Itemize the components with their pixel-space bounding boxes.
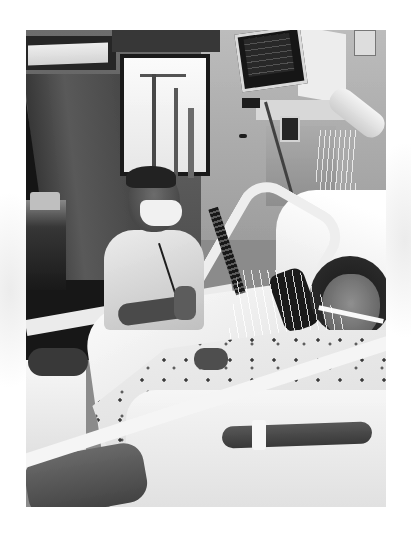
pole-clamp <box>242 98 260 108</box>
patient-hand <box>194 348 228 370</box>
photograph <box>26 30 386 507</box>
wall-fixture <box>239 134 247 138</box>
visitor-hair <box>126 166 176 188</box>
side-shelf <box>26 200 66 290</box>
clasped-hands <box>174 286 196 320</box>
surgical-mask <box>140 200 182 226</box>
door-transom-light <box>28 43 108 66</box>
wrist-restraint <box>252 420 266 450</box>
hallway-window <box>120 54 210 176</box>
shelf-items <box>30 192 60 210</box>
patient-feet <box>28 348 88 376</box>
window-header <box>112 30 220 52</box>
iv-pump <box>280 116 300 142</box>
iv-pole-hook <box>140 74 186 77</box>
monitor-screen <box>244 33 295 77</box>
iv-pole <box>188 108 194 178</box>
iv-pole <box>174 88 178 183</box>
wall-outlet <box>354 30 376 56</box>
